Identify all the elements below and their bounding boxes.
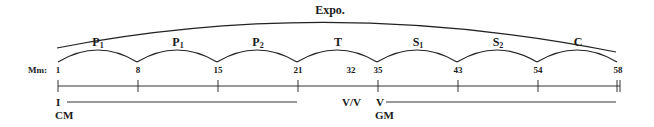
section-label-s1: S1 — [413, 36, 424, 50]
measure-number: 15 — [214, 66, 223, 75]
measure-timeline — [58, 80, 620, 92]
measure-number: 54 — [534, 66, 543, 75]
section-label-p1a: P1 — [92, 36, 103, 50]
measure-label: Mm: — [28, 66, 47, 75]
section-label-p2: P2 — [252, 36, 263, 50]
medial-caesura-label: V/V — [342, 97, 361, 108]
exposition-label: Expo. — [315, 4, 345, 16]
section-label-p1b: P1 — [172, 36, 183, 50]
first-key-function: I — [56, 97, 60, 108]
section-label-t: T — [334, 36, 342, 48]
section-arcs — [58, 50, 617, 62]
section-label-s2: S2 — [493, 36, 504, 50]
measure-number: 35 — [374, 66, 383, 75]
second-key-function: V — [376, 97, 384, 108]
measure-number: 43 — [454, 66, 463, 75]
measure-number: 21 — [294, 66, 303, 75]
measure-number: 8 — [136, 66, 141, 75]
measure-number: 1 — [56, 66, 61, 75]
measure-number: 32 — [347, 66, 356, 75]
second-key-area: GM — [375, 110, 394, 121]
section-label-c: C — [574, 36, 583, 48]
measure-number: 58 — [614, 66, 623, 75]
form-diagram-graphics — [0, 0, 654, 127]
first-key-area: CM — [55, 110, 73, 121]
